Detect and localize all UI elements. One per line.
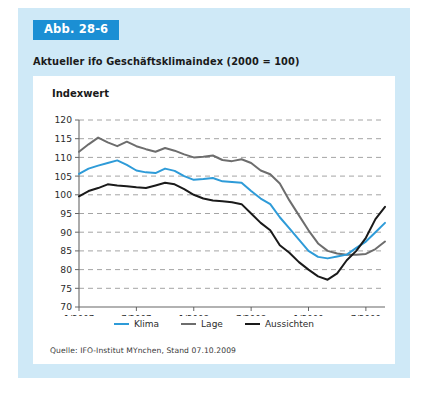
y-tick-label: 120 (54, 114, 72, 125)
x-tick-label: 1/2008 (179, 314, 209, 316)
series-line-aussichten (79, 183, 385, 280)
y-tick-label: 80 (60, 264, 72, 275)
chart-legend: KlimaLageAussichten (33, 319, 395, 329)
x-tick-label: 7/2009 (351, 314, 381, 316)
x-tick-label: 1/2009 (293, 314, 323, 316)
y-tick-label: 95 (60, 208, 72, 219)
y-tick-label: 70 (60, 301, 72, 312)
y-tick-label: 105 (54, 171, 72, 182)
chart-card: Indexwert 7075808590951001051101151201/2… (33, 76, 395, 364)
legend-swatch-aussichten (245, 323, 260, 326)
figure-panel: Abb. 28-6 Aktueller ifo Geschäftsklimain… (18, 8, 410, 378)
y-tick-label: 100 (54, 189, 72, 200)
legend-swatch-lage (181, 323, 196, 326)
legend-label: Klima (134, 319, 159, 329)
series-line-klima (79, 160, 385, 258)
legend-label: Lage (201, 319, 223, 329)
y-tick-label: 90 (60, 227, 72, 238)
figure-badge: Abb. 28-6 (33, 20, 119, 40)
legend-item-lage: Lage (181, 319, 223, 329)
legend-item-klima: Klima (114, 319, 159, 329)
series-line-lage (79, 138, 385, 255)
y-tick-label: 75 (60, 283, 72, 294)
x-tick-label: 7/2007 (121, 314, 151, 316)
legend-label: Aussichten (265, 319, 314, 329)
figure-title: Aktueller ifo Geschäftsklimaindex (2000 … (33, 56, 300, 67)
legend-item-aussichten: Aussichten (245, 319, 314, 329)
legend-swatch-klima (114, 323, 129, 326)
y-tick-label: 110 (54, 152, 72, 163)
line-chart: 7075808590951001051101151201/20077/20071… (33, 76, 395, 316)
source-note: Quelle: IFO-Institut MYnchen, Stand 07.1… (50, 346, 236, 355)
x-tick-label: 7/2008 (236, 314, 266, 316)
y-tick-label: 85 (60, 245, 72, 256)
y-tick-label: 115 (54, 133, 72, 144)
x-tick-label: 1/2007 (64, 314, 94, 316)
